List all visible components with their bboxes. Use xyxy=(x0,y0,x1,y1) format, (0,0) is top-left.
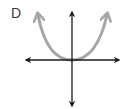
graph xyxy=(0,0,126,109)
